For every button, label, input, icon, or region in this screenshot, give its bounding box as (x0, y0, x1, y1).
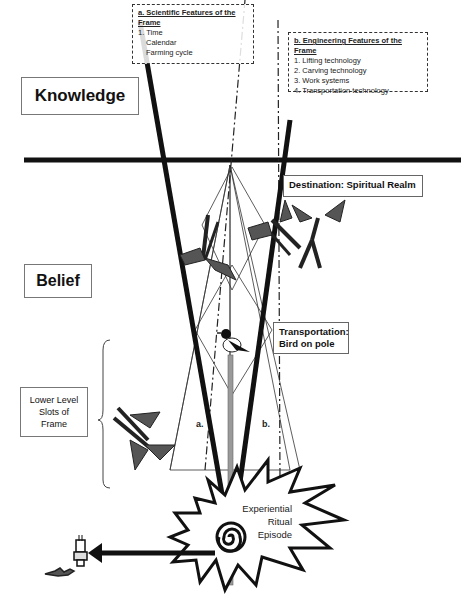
engineering-feature-item: 2. Carving technology (294, 66, 422, 76)
lantern-icon (74, 535, 87, 566)
knowledge-label: Knowledge (21, 77, 139, 115)
ritual-line: Episode (232, 528, 292, 541)
small-spirit-icon (45, 568, 74, 576)
transportation-line: Transportation: (279, 326, 343, 338)
scientific-feature-item: Calendar (138, 38, 248, 48)
lower-level-line: Frame (41, 418, 67, 430)
scientific-feature-item: Farming cycle (138, 48, 248, 58)
lower-level-line: Lower Level (30, 394, 79, 406)
scientific-features-box: a. Scientific Features of the Frame 1. T… (132, 4, 254, 64)
engineering-feature-item: 4. Transportation technology (294, 86, 422, 96)
frame-diagram: a. Scientific Features of the Frame 1. T… (0, 0, 461, 610)
knowledge-text: Knowledge (35, 86, 126, 106)
ritual-line: Experiential (232, 502, 292, 515)
dashdot-line-a (205, 0, 245, 470)
lower-level-line: Slots of (39, 406, 69, 418)
cone-b (230, 165, 290, 470)
transportation-line: Bird on pole (279, 338, 343, 350)
scientific-features-title: a. Scientific Features of the Frame (138, 8, 248, 28)
engineering-features-box: b. Engineering Features of the Frame 1. … (288, 32, 428, 92)
ritual-episode-label: Experiential Ritual Episode (232, 502, 292, 541)
spirit-figure-1 (180, 215, 236, 280)
belief-text: Belief (36, 272, 80, 290)
spirit-figure-4 (114, 408, 175, 470)
transportation-callout: Transportation: Bird on pole (273, 322, 349, 354)
cone-label-a: a. (196, 419, 204, 429)
bird-icon (217, 329, 250, 352)
belief-label: Belief (24, 264, 92, 298)
destination-text: Destination: Spiritual Realm (289, 179, 416, 190)
engineering-features-title: b. Engineering Features of the Frame (294, 36, 422, 56)
lower-level-slots-label: Lower Level Slots of Frame (20, 387, 88, 437)
ritual-line: Ritual (232, 515, 292, 528)
engineering-feature-item: 3. Work systems (294, 76, 422, 86)
scientific-feature-item: 1. Time (138, 28, 248, 38)
spirit-figure-3 (292, 200, 345, 268)
arrow-head-icon (88, 543, 102, 563)
cone-label-b: b. (262, 419, 270, 429)
engineering-feature-item: 1. Lifting technology (294, 56, 422, 66)
lower-level-brace (98, 340, 110, 488)
thick-line-a (140, 22, 230, 540)
destination-callout: Destination: Spiritual Realm (283, 175, 423, 197)
